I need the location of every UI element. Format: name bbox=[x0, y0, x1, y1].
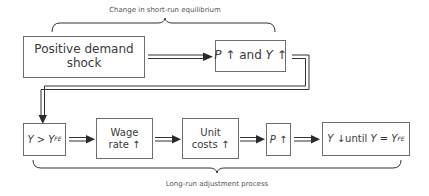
y-symbol: Y bbox=[27, 134, 33, 146]
and-text: and bbox=[239, 49, 262, 63]
wage-line1: Wage bbox=[111, 127, 139, 139]
unit-costs-box: Unit costs ↑ bbox=[182, 118, 239, 159]
arrow-gap-to-wage bbox=[69, 138, 88, 142]
shock-text: Positive demand shock bbox=[24, 43, 144, 71]
arrow-costs-to-price bbox=[240, 138, 258, 142]
y-symbol: Y bbox=[370, 133, 376, 145]
long-run-label: Long-run adjustment process bbox=[152, 180, 282, 188]
output-gap-box: Y > YFE bbox=[23, 123, 66, 156]
output-adjust-box: Y ↓until Y = YFE bbox=[322, 122, 410, 156]
arrow-shock-to-result bbox=[148, 53, 213, 62]
up-arrow-icon: ↑ bbox=[132, 139, 140, 150]
fe-subscript: FE bbox=[54, 136, 61, 143]
wage-rate-box: Wage rate ↑ bbox=[96, 118, 153, 159]
up-arrow-icon: ↑ bbox=[225, 49, 235, 63]
y-symbol: Y bbox=[327, 133, 333, 145]
arrow-price-to-adjust bbox=[294, 138, 313, 142]
fe-subscript: FE bbox=[397, 136, 404, 143]
gt-symbol: > bbox=[37, 134, 45, 146]
diagram-connectors bbox=[0, 0, 429, 196]
bottom-brace bbox=[33, 160, 401, 173]
costs-line1: Unit bbox=[200, 127, 220, 139]
price-symbol: P bbox=[270, 134, 276, 146]
price-output-rise-box: P ↑ and Y ↑ bbox=[215, 40, 286, 72]
equals-symbol: = bbox=[380, 133, 388, 145]
top-brace bbox=[52, 18, 275, 32]
costs-line2: costs bbox=[192, 139, 218, 150]
up-arrow-icon: ↑ bbox=[277, 49, 287, 63]
arrow-wage-to-costs bbox=[155, 138, 174, 142]
wage-line2: rate bbox=[109, 139, 129, 150]
price-rise-box: P ↑ bbox=[266, 123, 291, 156]
down-arrow-icon: ↓ bbox=[337, 133, 345, 145]
until-text: until bbox=[345, 133, 367, 145]
output-symbol: Y bbox=[266, 49, 273, 63]
price-symbol: P bbox=[214, 49, 221, 63]
up-arrow-icon: ↑ bbox=[279, 134, 287, 146]
positive-demand-shock-box: Positive demand shock bbox=[23, 36, 145, 78]
up-arrow-icon: ↑ bbox=[221, 139, 229, 150]
short-run-label: Change in short-run equilibrium bbox=[100, 6, 230, 14]
